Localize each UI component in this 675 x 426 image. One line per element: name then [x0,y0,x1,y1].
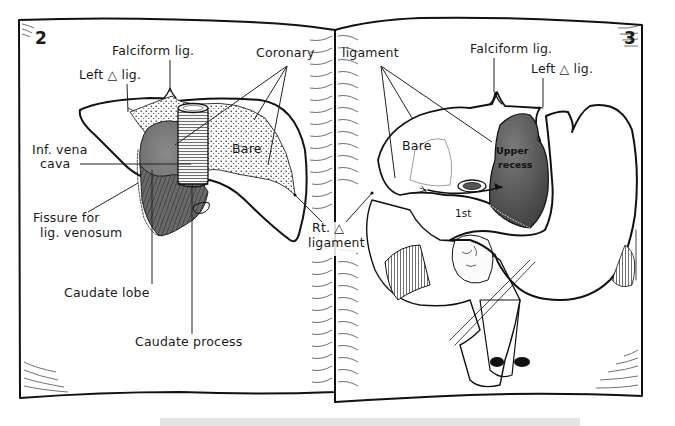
label-caudate-lobe: Caudate lobe [64,285,150,300]
page-number-right: 3 [624,28,636,48]
label-falciform-right: Falciform lig. [470,41,552,56]
label-bare-left: Bare [232,141,262,156]
label-fissure-2: lig. venosum [40,225,123,240]
label-bare-right: Bare [402,138,432,153]
left-liver-figure [80,88,307,241]
page-number-left: 2 [35,28,47,48]
label-coronary: Coronary [256,45,315,60]
liver-diagram: 2 3 Falciform lig. Left △ lig. [0,0,675,426]
label-left-triangular-right: Left △ lig. [531,61,593,76]
caption-strip-cut-off [160,418,580,426]
label-rt-triangular-1: Rt. △ [312,220,344,235]
label-fissure-1: Fissure for [33,210,100,225]
label-ivc-2: cava [40,156,70,171]
inferior-vena-cava [178,104,208,188]
label-upper-recess-2: recess [498,159,533,170]
pancreas-head [452,235,493,283]
label-ivc-1: Inf. vena [32,142,88,157]
illustration-spread: 2 3 Falciform lig. Left △ lig. [0,0,675,426]
label-upper-recess-1: Upper [496,145,529,156]
label-first-part: 1st [455,207,471,219]
label-coronary-ligament: ligament [342,45,399,60]
right-liver-figure [367,92,637,387]
label-falciform-left: Falciform lig. [112,43,194,58]
label-rt-triangular-2: ligament [308,235,365,250]
label-caudate-process: Caudate process [135,334,243,349]
label-left-triangular-left: Left △ lig. [79,67,141,82]
